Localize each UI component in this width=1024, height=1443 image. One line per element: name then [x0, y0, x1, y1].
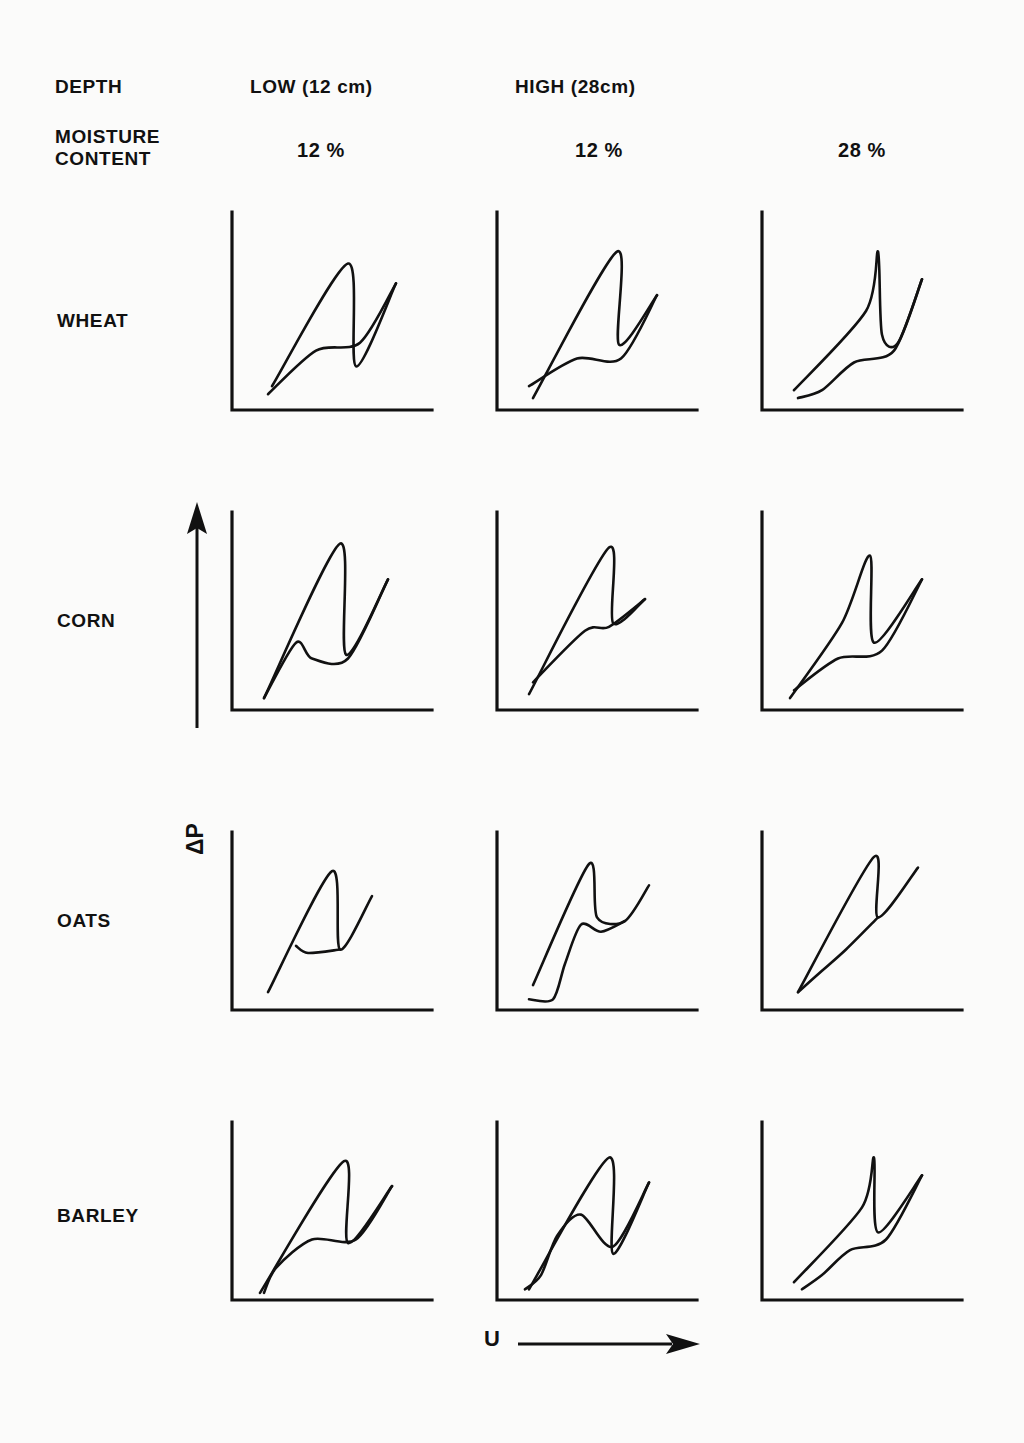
loading-curve	[533, 251, 657, 398]
panel-axes	[762, 512, 962, 710]
unloading-curve	[798, 917, 878, 992]
panel-corn-col3	[756, 506, 986, 728]
u-axis-arrow	[516, 1326, 706, 1360]
loading-curve	[272, 263, 396, 386]
panel-wheat-col3	[756, 206, 986, 428]
panel-barley-col1	[226, 1116, 456, 1318]
column-moisture-3: 28 %	[838, 139, 886, 163]
row-label-barley: BARLEY	[57, 1205, 139, 1227]
moisture-key-label: MOISTURE CONTENT	[55, 126, 160, 171]
panel-axes	[762, 212, 962, 410]
row-label-oats: OATS	[57, 910, 111, 932]
unloading-curve	[296, 946, 340, 953]
loading-curve	[533, 863, 649, 985]
unloading-curve	[525, 1183, 649, 1290]
loading-curve	[260, 1161, 392, 1293]
u-axis-label: U	[484, 1326, 501, 1352]
panel-wheat-col2	[491, 206, 721, 428]
delta-p-axis-arrow	[178, 500, 218, 740]
panel-axes	[232, 1122, 432, 1300]
unloading-curve	[268, 283, 396, 394]
column-depth-high: HIGH (28cm)	[515, 76, 636, 98]
depth-key-label: DEPTH	[55, 76, 122, 98]
unloading-curve	[264, 579, 388, 698]
panel-axes	[497, 832, 697, 1010]
delta-p-axis-label: ΔP	[182, 823, 209, 855]
unloading-curve	[533, 599, 645, 682]
unloading-curve	[798, 279, 922, 398]
unloading-curve	[794, 579, 922, 690]
row-label-wheat: WHEAT	[57, 310, 128, 332]
loading-curve	[794, 251, 922, 390]
unloading-curve	[264, 1186, 392, 1293]
loading-curve	[268, 871, 372, 992]
panel-axes	[762, 1122, 962, 1300]
column-moisture-2: 12 %	[575, 139, 623, 163]
loading-curve	[529, 547, 645, 695]
panel-corn-col2	[491, 506, 721, 728]
panel-wheat-col1	[226, 206, 456, 428]
panel-oats-col2	[491, 826, 721, 1028]
column-moisture-1: 12 %	[297, 139, 345, 163]
panel-axes	[232, 512, 432, 710]
panel-corn-col1	[226, 506, 456, 728]
loading-curve	[794, 1157, 922, 1282]
panel-axes	[232, 212, 432, 410]
unloading-curve	[529, 295, 657, 386]
panel-barley-col3	[756, 1116, 986, 1318]
row-label-corn: CORN	[57, 610, 115, 632]
panel-oats-col3	[756, 826, 986, 1028]
unloading-curve	[802, 1175, 922, 1289]
panel-oats-col1	[226, 826, 456, 1028]
loading-curve	[798, 856, 918, 992]
panel-axes	[497, 1122, 697, 1300]
panel-axes	[232, 832, 432, 1010]
panel-barley-col2	[491, 1116, 721, 1318]
panel-axes	[497, 212, 697, 410]
column-depth-low: LOW (12 cm)	[250, 76, 373, 98]
panel-axes	[762, 832, 962, 1010]
panel-axes	[497, 512, 697, 710]
